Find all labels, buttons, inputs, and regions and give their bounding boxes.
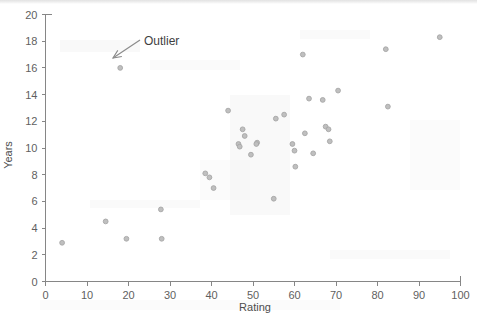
y-tick-label-12: 12 (25, 115, 37, 127)
x-tick-label-80: 80 (371, 289, 383, 301)
data-point (207, 175, 212, 180)
y-tick-label-14: 14 (25, 89, 37, 101)
y-tick-label-20: 20 (25, 9, 37, 21)
data-point (271, 196, 276, 201)
data-point (211, 186, 216, 191)
x-tick-label-0: 0 (42, 289, 48, 301)
y-tick-label-6: 6 (31, 195, 37, 207)
data-point (158, 207, 163, 212)
x-tick-label-60: 60 (288, 289, 300, 301)
data-point (242, 134, 247, 139)
data-point (437, 35, 442, 40)
x-tick-label-10: 10 (81, 289, 93, 301)
outlier-annotation-label: Outlier (144, 34, 179, 48)
data-point (249, 152, 254, 157)
data-point (311, 151, 316, 156)
x-tick-label-30: 30 (164, 289, 176, 301)
y-axis-title: Years (2, 141, 14, 169)
x-tick-label-90: 90 (413, 289, 425, 301)
data-point (124, 236, 129, 241)
scan-blob-8 (410, 120, 460, 190)
scan-blob-5 (330, 250, 450, 259)
scan-blob-7 (200, 160, 250, 200)
data-point (326, 127, 331, 132)
data-point (300, 52, 305, 57)
y-tick-label-0: 0 (31, 276, 37, 288)
data-point (282, 112, 287, 117)
scan-blob-1 (150, 60, 240, 70)
scan-blob-6 (40, 300, 340, 310)
chart-canvas: 024681012141618200102030405060708090100 … (0, 0, 477, 328)
data-point (60, 240, 65, 245)
y-tick-label-10: 10 (25, 142, 37, 154)
data-point (307, 96, 312, 101)
scan-blob-0 (60, 40, 140, 52)
y-tick-label-16: 16 (25, 62, 37, 74)
scan-noise-layer (40, 30, 460, 310)
x-tick-label-50: 50 (247, 289, 259, 301)
data-point (203, 171, 208, 176)
data-point (290, 142, 295, 147)
data-point (292, 148, 297, 153)
data-point (320, 98, 325, 103)
x-tick-label-40: 40 (205, 289, 217, 301)
y-tick-label-2: 2 (31, 249, 37, 261)
scan-blob-4 (90, 200, 200, 208)
data-point (273, 116, 278, 121)
y-tick-label-18: 18 (25, 35, 37, 47)
x-tick-label-70: 70 (330, 289, 342, 301)
data-point (385, 104, 390, 109)
data-point (159, 236, 164, 241)
data-point (226, 108, 231, 113)
data-point (336, 88, 341, 93)
y-tick-label-4: 4 (31, 222, 37, 234)
data-point (293, 164, 298, 169)
data-point (103, 219, 108, 224)
x-tick-label-20: 20 (122, 289, 134, 301)
x-axis-title: Rating (239, 301, 271, 313)
y-tick-label-8: 8 (31, 169, 37, 181)
data-point (118, 66, 123, 71)
scan-blob-3 (300, 30, 370, 39)
data-point (254, 142, 259, 147)
data-point (327, 139, 332, 144)
x-tick-label-100: 100 (451, 289, 469, 301)
data-point (383, 47, 388, 52)
data-point (237, 144, 242, 149)
data-point (240, 127, 245, 132)
scatter-chart: 024681012141618200102030405060708090100 … (0, 0, 477, 328)
data-point (302, 131, 307, 136)
